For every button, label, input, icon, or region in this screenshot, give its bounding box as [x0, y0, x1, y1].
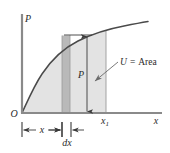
area-callout-word: Area [138, 57, 157, 67]
area-callout-label: U=Area [120, 57, 157, 67]
area-callout-equals: = [130, 57, 135, 67]
force-ordinate-label: P [77, 69, 84, 80]
area-callout-symbol: U [120, 57, 128, 67]
x-axis-label: x [153, 115, 159, 126]
work-area-diagram: P x O P x dx x1 U=Area [0, 0, 170, 153]
upper-limit-label: x1 [100, 115, 109, 128]
figure-container: P x O P x dx x1 U=Area [0, 0, 170, 153]
distance-x-label: x [39, 124, 45, 135]
element-width-label: dx [62, 137, 72, 148]
upper-limit-subscript: 1 [105, 120, 109, 128]
y-axis-label: P [24, 13, 31, 24]
origin-label: O [10, 108, 17, 119]
